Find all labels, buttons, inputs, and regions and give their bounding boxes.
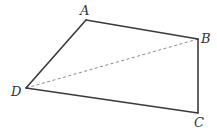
vertex-label-B: B xyxy=(200,31,211,46)
quadrilateral-diagram: A B C D xyxy=(0,0,217,133)
edge-DA xyxy=(26,20,86,88)
vertex-label-A: A xyxy=(79,3,89,18)
diagonal-DB xyxy=(26,39,198,88)
edge-CD xyxy=(26,88,198,113)
vertex-label-D: D xyxy=(10,84,22,99)
vertex-label-C: C xyxy=(194,115,204,130)
edge-AB xyxy=(86,20,198,39)
